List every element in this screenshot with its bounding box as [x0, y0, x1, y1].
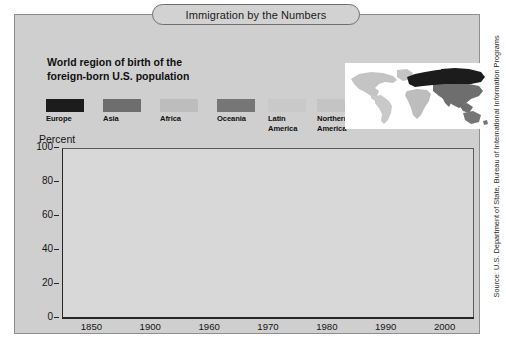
page-title: Immigration by the Numbers — [186, 9, 327, 21]
chart-panel: World region of birth of the foreign-bor… — [14, 14, 480, 334]
y-tick-20: 20 — [23, 277, 53, 288]
x-tick-1960: 1960 — [183, 321, 235, 332]
y-tick-mark — [54, 249, 59, 250]
y-tick-0: 0 — [23, 311, 53, 322]
chart-legend: EuropeAsiaAfricaOceaniaLatinAmericaNorth… — [46, 99, 326, 133]
legend-item-oceania: Oceania — [217, 99, 263, 124]
world-map — [345, 63, 491, 129]
y-tick-mark — [54, 147, 59, 148]
legend-swatch-europe — [46, 99, 84, 112]
x-tick-1980: 1980 — [301, 321, 353, 332]
y-tick-mark — [54, 317, 59, 318]
source-text: Source: U.S. Department of State, Bureau… — [492, 48, 501, 298]
x-tick-1900: 1900 — [124, 321, 176, 332]
legend-label: Europe — [46, 114, 92, 124]
x-tick-1990: 1990 — [360, 321, 412, 332]
x-tick-1850: 1850 — [65, 321, 117, 332]
legend-label: Africa — [160, 114, 206, 124]
y-tick-60: 60 — [23, 209, 53, 220]
chart-subtitle-line1: World region of birth of the — [47, 55, 297, 69]
y-tick-mark — [54, 181, 59, 182]
legend-label: Oceania — [217, 114, 263, 124]
chart-subtitle-line2: foreign-born U.S. population — [47, 69, 297, 83]
legend-label: Asia — [103, 114, 149, 124]
legend-item-asia: Asia — [103, 99, 149, 124]
legend-item-latin: LatinAmerica — [268, 99, 314, 133]
y-tick-mark — [54, 215, 59, 216]
legend-label: Latin — [268, 114, 314, 124]
legend-label-line2: America — [268, 124, 314, 134]
world-map-svg — [345, 63, 491, 129]
y-tick-80: 80 — [23, 175, 53, 186]
x-tick-1970: 1970 — [242, 321, 294, 332]
legend-swatch-latin — [268, 99, 306, 112]
legend-swatch-africa — [160, 99, 198, 112]
source-note: Source: U.S. Department of State, Bureau… — [484, 0, 506, 348]
y-tick-40: 40 — [23, 243, 53, 254]
chart-plot-area — [62, 148, 474, 318]
infographic-root: World region of birth of the foreign-bor… — [0, 0, 506, 348]
chart-subtitle: World region of birth of the foreign-bor… — [47, 55, 297, 83]
legend-item-africa: Africa — [160, 99, 206, 124]
y-tick-100: 100 — [23, 141, 53, 152]
x-axis-line — [62, 317, 474, 319]
legend-swatch-asia — [103, 99, 141, 112]
x-tick-2000: 2000 — [419, 321, 471, 332]
title-tab: Immigration by the Numbers — [152, 4, 360, 25]
legend-item-europe: Europe — [46, 99, 92, 124]
legend-swatch-oceania — [217, 99, 255, 112]
y-tick-mark — [54, 283, 59, 284]
